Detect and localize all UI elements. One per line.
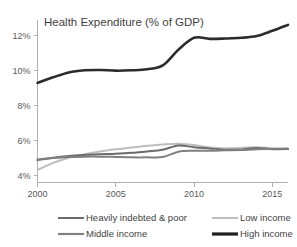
y-tick-label: 10% [12,66,30,76]
chart-canvas: Health Expenditure (% of GDP) 4%6%8%10%1… [0,0,297,247]
chart-title: Health Expenditure (% of GDP) [44,16,204,28]
legend-item-middle-income[interactable]: Middle income [58,228,147,239]
legend-label-high-income: High income [240,228,293,239]
series-lines [38,25,289,170]
x-tick-label: 2015 [262,189,282,199]
health-expenditure-chart: Health Expenditure (% of GDP) 4%6%8%10%1… [0,0,297,247]
x-tick-label: 2010 [184,189,204,199]
series-line-high-income [38,25,289,83]
y-tick-label: 8% [17,101,30,111]
chart-legend: Heavily indebted & poorLow incomeMiddle … [58,212,293,239]
y-tick-label: 6% [17,136,30,146]
legend-item-high-income[interactable]: High income [212,228,293,239]
legend-label-middle-income: Middle income [86,228,147,239]
x-tick-label: 2000 [27,189,47,199]
y-tick-label: 4% [17,171,30,181]
legend-item-low-income[interactable]: Low income [212,212,291,223]
x-axis: 2000200520102015 [27,183,282,199]
x-tick-label: 2005 [106,189,126,199]
y-axis: 4%6%8%10%12% [12,31,37,181]
plot-area: Health Expenditure (% of GDP) 4%6%8%10%1… [12,16,288,199]
legend-label-low-income: Low income [240,212,291,223]
y-tick-label: 12% [12,31,30,41]
legend-item-heavily-indebted-poor[interactable]: Heavily indebted & poor [58,212,187,223]
legend-label-heavily-indebted-poor: Heavily indebted & poor [86,212,187,223]
